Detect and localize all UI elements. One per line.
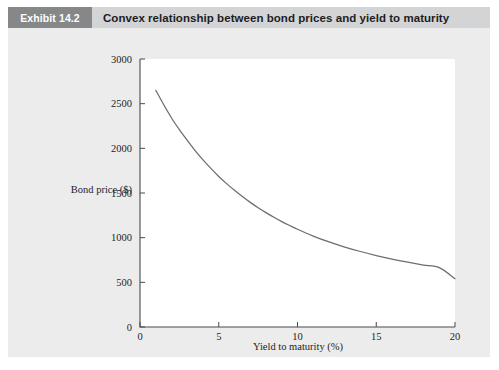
y-tick-label: 1000 <box>111 232 132 243</box>
bond-price-yield-chart: 050010001500200025003000 05101520 Bond p… <box>8 28 490 357</box>
y-tick-label: 0 <box>127 322 132 333</box>
exhibit-badge: Exhibit 14.2 <box>8 7 92 28</box>
x-tick-label: 5 <box>216 331 221 342</box>
x-axis-title: Yield to maturity (%) <box>253 341 344 353</box>
y-tick-label: 3000 <box>111 54 132 65</box>
x-tick-label: 20 <box>450 331 461 342</box>
x-tick-label: 15 <box>371 331 382 342</box>
y-tick-label: 500 <box>116 277 132 288</box>
y-axis-title: Bond price ($) <box>71 184 133 196</box>
exhibit-figure: Exhibit 14.2 Convex relationship between… <box>8 7 490 357</box>
y-tick-label: 2500 <box>111 98 132 109</box>
y-tick-label: 2000 <box>111 143 132 154</box>
x-tick-label: 0 <box>137 331 142 342</box>
exhibit-title: Convex relationship between bond prices … <box>92 7 490 28</box>
plot-background <box>140 59 455 327</box>
chart-plot-container: 050010001500200025003000 05101520 Bond p… <box>8 28 490 357</box>
exhibit-header: Exhibit 14.2 Convex relationship between… <box>8 7 490 28</box>
